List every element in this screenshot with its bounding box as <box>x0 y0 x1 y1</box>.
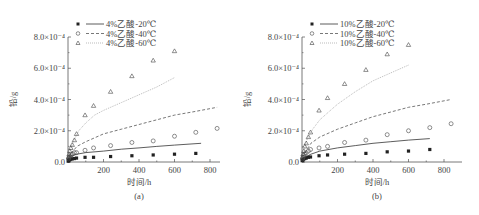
panel-label: (b) <box>372 191 382 201</box>
y-tick-label: 6.0×10⁻⁴ <box>34 63 65 73</box>
chart-panel-a: 0.02.0×10⁻⁴4.0×10⁻⁴6.0×10⁻⁴8.0×10⁻⁴20040… <box>0 0 240 215</box>
y-axis-label: 铅/g <box>8 91 18 107</box>
data-point-square <box>317 154 320 157</box>
data-point-circle <box>194 130 198 134</box>
x-tick-label: 800 <box>204 165 217 175</box>
data-point-square <box>386 150 389 153</box>
data-point-square <box>326 153 329 156</box>
data-point-circle <box>428 126 432 130</box>
x-tick-label: 400 <box>133 165 146 175</box>
data-point-square <box>109 155 112 158</box>
data-point-circle <box>109 144 113 148</box>
x-tick-label: 600 <box>168 165 181 175</box>
legend-entry: 4%乙酸-20℃ <box>106 19 156 29</box>
legend-entry: 10%乙酸-60℃ <box>340 38 394 48</box>
legend-entry: 10%乙酸-20℃ <box>340 19 394 29</box>
data-point-square <box>194 152 197 155</box>
panel-label: (a) <box>134 191 144 201</box>
data-point-triangle <box>130 74 134 78</box>
legend-entry: 4%乙酸-40℃ <box>106 29 156 39</box>
x-tick-label: 600 <box>402 165 415 175</box>
data-point-triangle <box>83 113 87 117</box>
data-point-triangle <box>385 52 389 56</box>
data-point-circle <box>385 133 389 137</box>
data-point-triangle <box>91 104 95 108</box>
data-point-circle <box>343 140 347 144</box>
data-point-circle <box>364 138 368 142</box>
legend-entry: 4%乙酸-60℃ <box>106 38 156 48</box>
data-point-circle <box>130 140 134 144</box>
data-point-triangle <box>325 96 329 100</box>
data-point-circle <box>83 148 87 152</box>
data-point-square <box>83 156 86 159</box>
y-tick-label: 8.0×10⁻⁴ <box>34 32 65 42</box>
data-point-square <box>92 156 95 159</box>
data-point-circle <box>326 144 330 148</box>
data-point-triangle <box>364 68 368 72</box>
data-point-circle <box>407 129 411 133</box>
x-axis-label: 时间/h <box>127 177 152 187</box>
legend-entry: 10%乙酸-40℃ <box>340 29 394 39</box>
x-axis-label: 时间/h <box>365 177 390 187</box>
y-tick-label: 2.0×10⁻⁴ <box>34 126 65 136</box>
chart-panel-b: 0.02.0×10⁻⁴4.0×10⁻⁴6.0×10⁻⁴8.0×10⁻⁴20040… <box>240 0 479 215</box>
fit-line <box>68 107 217 157</box>
data-point-triangle <box>108 89 112 93</box>
fit-line <box>302 65 409 157</box>
data-point-triangle <box>406 43 410 47</box>
data-point-square <box>152 153 155 156</box>
fit-line <box>68 78 175 158</box>
data-point-square <box>428 148 431 151</box>
data-point-triangle <box>74 132 78 136</box>
data-point-square <box>309 155 312 158</box>
chart-b-svg: 0.02.0×10⁻⁴4.0×10⁻⁴6.0×10⁻⁴8.0×10⁻⁴20040… <box>240 0 479 215</box>
y-tick-label: 0.0 <box>54 157 65 167</box>
data-point-triangle <box>317 108 321 112</box>
x-tick-label: 200 <box>97 165 110 175</box>
data-point-circle <box>151 139 155 143</box>
data-point-triangle <box>306 135 310 139</box>
y-tick-label: 4.0×10⁻⁴ <box>268 95 299 105</box>
data-point-square <box>75 156 78 159</box>
y-tick-label: 0.0 <box>288 157 299 167</box>
x-tick-label: 400 <box>367 165 380 175</box>
data-point-circle <box>449 122 453 126</box>
data-point-circle <box>173 134 177 138</box>
x-tick-label: 200 <box>331 165 344 175</box>
data-point-triangle <box>151 58 155 62</box>
y-tick-label: 2.0×10⁻⁴ <box>268 126 299 136</box>
data-point-circle <box>317 146 321 150</box>
y-axis-label: 铅/g <box>242 91 252 107</box>
data-point-triangle <box>172 49 176 53</box>
data-point-circle <box>215 126 219 130</box>
data-point-square <box>343 153 346 156</box>
fit-line <box>68 143 201 157</box>
data-point-circle <box>92 146 96 150</box>
data-point-square <box>130 154 133 157</box>
data-point-square <box>364 152 367 155</box>
y-tick-label: 8.0×10⁻⁴ <box>268 32 299 42</box>
x-tick-label: 800 <box>438 165 451 175</box>
y-tick-label: 4.0×10⁻⁴ <box>34 95 65 105</box>
data-point-square <box>173 153 176 156</box>
data-point-square <box>407 149 410 152</box>
data-point-triangle <box>342 82 346 86</box>
chart-a-svg: 0.02.0×10⁻⁴4.0×10⁻⁴6.0×10⁻⁴8.0×10⁻⁴20040… <box>0 0 240 215</box>
y-tick-label: 6.0×10⁻⁴ <box>268 63 299 73</box>
